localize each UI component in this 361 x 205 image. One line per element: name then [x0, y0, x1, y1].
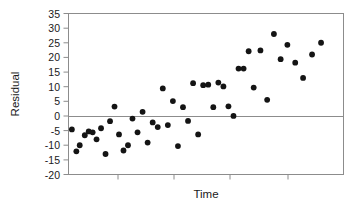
x-tick-marks	[118, 175, 288, 180]
data-point	[190, 80, 196, 86]
data-point	[150, 119, 156, 125]
data-point	[271, 31, 277, 37]
y-tick-label: -5	[51, 125, 60, 137]
y-tick-label: 15	[48, 66, 60, 78]
data-point	[278, 56, 284, 62]
data-point	[140, 109, 146, 115]
data-point	[170, 98, 176, 104]
data-point	[226, 103, 232, 109]
data-point	[135, 129, 141, 135]
data-point	[292, 60, 298, 66]
y-tick-label: 20	[48, 51, 60, 63]
data-point	[300, 75, 306, 81]
data-point	[121, 148, 127, 154]
data-point	[264, 97, 270, 103]
data-point	[246, 48, 252, 54]
data-point	[175, 143, 181, 149]
x-axis-title: Time	[193, 188, 218, 200]
data-point	[98, 125, 104, 131]
data-point	[210, 104, 216, 110]
y-tick-label: -20	[45, 169, 60, 181]
data-point	[94, 136, 100, 142]
y-tick-label: 30	[48, 22, 60, 34]
data-point	[309, 52, 315, 58]
data-point	[241, 66, 247, 72]
y-tick-label: 10	[48, 81, 60, 93]
y-tick-label: -15	[45, 154, 60, 166]
data-point	[180, 104, 186, 110]
residual-plot-figure: 35 30 25 20 15 10 5 0 -5 -10 -15 -20 Tim…	[0, 0, 361, 205]
data-point	[221, 83, 227, 89]
data-point	[215, 80, 221, 86]
y-tick-labels: 35 30 25 20 15 10 5 0 -5 -10 -15 -20	[45, 8, 60, 181]
data-point	[112, 104, 118, 110]
data-point	[165, 122, 171, 128]
y-tick-label: -10	[45, 139, 60, 151]
data-point	[145, 140, 151, 146]
data-point	[200, 82, 206, 88]
y-axis-title: Residual	[9, 72, 21, 117]
data-point	[103, 151, 109, 157]
data-point	[251, 85, 257, 91]
data-point	[236, 66, 242, 72]
data-point	[205, 82, 211, 88]
y-tick-marks	[64, 14, 69, 175]
data-point	[258, 47, 264, 53]
data-points-layer	[69, 31, 324, 157]
plot-frame	[69, 14, 344, 175]
data-point	[116, 132, 122, 138]
scatter-chart: 35 30 25 20 15 10 5 0 -5 -10 -15 -20 Tim…	[0, 0, 361, 205]
data-point	[231, 113, 237, 119]
data-point	[73, 148, 79, 154]
data-point	[185, 118, 191, 124]
data-point	[195, 132, 201, 138]
data-point	[69, 127, 75, 133]
data-point	[107, 118, 113, 124]
data-point	[318, 40, 324, 46]
y-tick-label: 5	[54, 95, 60, 107]
y-tick-label: 25	[48, 37, 60, 49]
data-point	[155, 124, 161, 130]
data-point	[160, 86, 166, 92]
y-tick-label: 35	[48, 8, 60, 20]
data-point	[125, 142, 131, 148]
data-point	[130, 116, 136, 122]
data-point	[90, 129, 96, 135]
data-point	[77, 142, 83, 148]
y-tick-label: 0	[54, 110, 60, 122]
data-point	[284, 42, 290, 48]
